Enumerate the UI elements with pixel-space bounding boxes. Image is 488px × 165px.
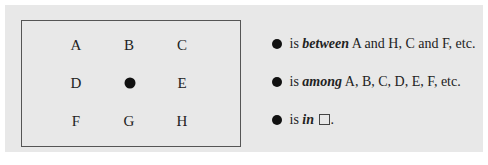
figure-panel: A B C D E F G H is between A and H, C an… [5,5,483,152]
dot-bullet-icon [272,39,282,49]
statement-among: is among A, B, C, D, E, F, etc. [272,74,461,90]
statement-rest: A and H, C and F, etc. [352,36,476,51]
center-dot-icon [125,78,136,89]
statement-prefix: is [290,112,299,127]
grid-letter-g: G [124,113,135,129]
statement-prefix: is [290,36,299,51]
statement-prefix: is [290,74,299,89]
statement-in: is in . [272,112,334,128]
grid-letter-b: B [124,37,134,53]
grid-letter-a: A [71,37,82,53]
grid-letter-e: E [177,75,186,91]
square-box-icon [319,114,330,125]
grid-letter-d: D [71,75,82,91]
statement-between: is between A and H, C and F, etc. [272,36,475,52]
statement-keyword: between [302,36,349,51]
statement-keyword: in [302,112,314,127]
grid-letter-f: F [72,113,80,129]
statement-rest: . [331,112,335,127]
grid-letter-c: C [177,37,187,53]
statement-keyword: among [302,74,342,89]
grid-letter-h: H [177,113,188,129]
statement-rest: A, B, C, D, E, F, etc. [345,74,461,89]
dot-bullet-icon [272,77,282,87]
dot-bullet-icon [272,115,282,125]
